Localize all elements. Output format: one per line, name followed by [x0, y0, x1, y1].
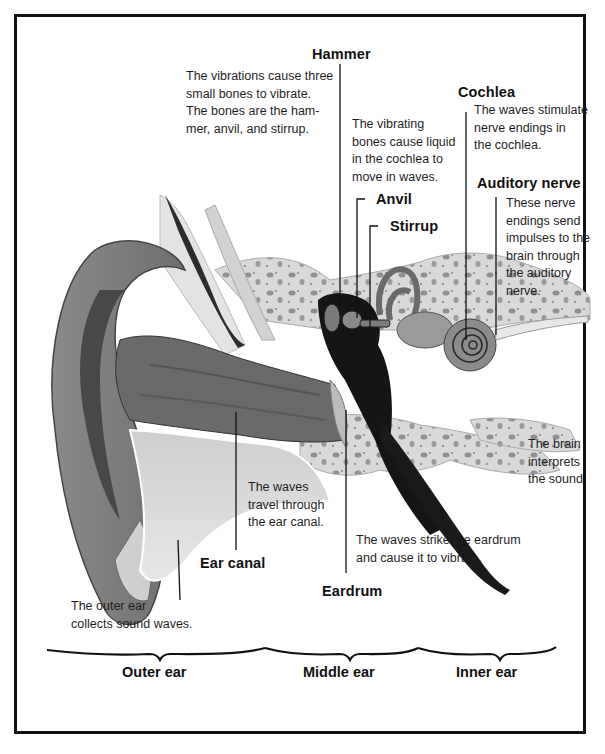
- caption-bones: The vibrations cause three small bones t…: [186, 68, 333, 138]
- caption-line: the cochlea.: [474, 137, 588, 155]
- caption-line: endings send: [506, 213, 590, 231]
- section-inner-ear: Inner ear: [456, 664, 517, 680]
- caption-line: The brain: [528, 436, 586, 454]
- caption-line: the ear canal.: [248, 514, 324, 532]
- cochlea-shape: [444, 319, 496, 371]
- label-auditory-nerve: Auditory nerve: [477, 175, 581, 191]
- caption-line: The waves strike the eardrum: [356, 532, 521, 550]
- label-anvil: Anvil: [376, 191, 412, 207]
- caption-eardrum: The waves strike the eardrum and cause i…: [356, 532, 521, 567]
- label-cochlea: Cochlea: [458, 84, 515, 100]
- caption-line: travel through: [248, 497, 324, 515]
- caption-line: small bones to vibrate.: [186, 86, 333, 104]
- caption-line: nerve endings in: [474, 120, 588, 138]
- caption-line: move in waves.: [352, 169, 456, 187]
- caption-line: The waves stimulate: [474, 102, 588, 120]
- caption-line: nerve.: [506, 283, 590, 301]
- caption-line: and cause it to vibrate.: [356, 550, 521, 568]
- caption-line: in the cochlea to: [352, 151, 456, 169]
- section-middle-ear: Middle ear: [303, 664, 375, 680]
- caption-nerve: These nerve endings send impulses to the…: [506, 195, 590, 300]
- label-stirrup: Stirrup: [390, 218, 438, 234]
- caption-liquid: The vibrating bones cause liquid in the …: [352, 116, 456, 186]
- caption-cochlea: The waves stimulate nerve endings in the…: [474, 102, 588, 155]
- caption-line: interprets: [528, 454, 586, 472]
- label-ear-canal: Ear canal: [200, 555, 265, 571]
- label-eardrum: Eardrum: [322, 583, 382, 599]
- caption-canal: The waves travel through the ear canal.: [248, 479, 324, 532]
- section-braces: [47, 647, 556, 660]
- caption-line: These nerve: [506, 195, 590, 213]
- caption-line: The vibrating: [352, 116, 456, 134]
- caption-line: brain through: [506, 248, 590, 266]
- caption-line: The vibrations cause three: [186, 68, 333, 86]
- caption-brain: The brain interprets the sound.: [528, 436, 586, 489]
- caption-line: collects sound waves.: [71, 616, 193, 634]
- caption-line: bones cause liquid: [352, 134, 456, 152]
- caption-line: The outer ear: [71, 598, 193, 616]
- section-outer-ear: Outer ear: [122, 664, 186, 680]
- caption-line: The waves: [248, 479, 324, 497]
- caption-line: the sound.: [528, 471, 586, 489]
- caption-line: impulses to the: [506, 230, 590, 248]
- caption-line: The bones are the ham-: [186, 103, 333, 121]
- caption-line: mer, anvil, and stirrup.: [186, 121, 333, 139]
- caption-outer: The outer ear collects sound waves.: [71, 598, 193, 633]
- label-hammer: Hammer: [312, 46, 371, 62]
- caption-line: the auditory: [506, 265, 590, 283]
